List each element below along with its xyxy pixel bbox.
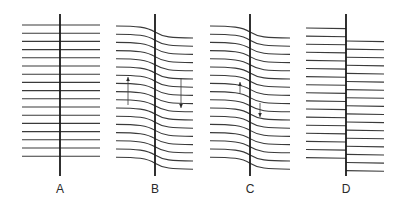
bedding-line-left [306, 93, 346, 94]
bedding-line-right [346, 154, 384, 155]
bedding-line-left [306, 69, 346, 70]
panel-label-c: C [246, 182, 255, 196]
bedding-line-left [306, 28, 346, 29]
bedding-line-right [346, 114, 384, 115]
bedding-line-right [346, 122, 384, 123]
bedding-line-left [306, 141, 346, 142]
bedding-line-right [346, 106, 384, 107]
bedding-line-left [306, 85, 346, 86]
bedding-line-left [306, 44, 346, 45]
bedding-line-right [346, 90, 384, 91]
arrowhead-icon [179, 104, 183, 108]
arrowhead-icon [126, 77, 130, 81]
panel-c: C [210, 14, 290, 196]
bedding-line-right [346, 130, 384, 131]
bedding-line-left [306, 109, 346, 110]
panel-b: B [116, 14, 193, 196]
fault-displacement-diagram: A B C D [0, 0, 406, 204]
bedding-line-right [346, 98, 384, 99]
bedding-line-left [306, 60, 346, 61]
bedding-line-right [346, 82, 384, 83]
arrowhead-icon [238, 82, 242, 86]
arrowhead-icon [258, 113, 262, 117]
bedding-line-left [306, 117, 346, 118]
bedding-line-right [346, 171, 384, 172]
bedding-line-right [346, 65, 384, 66]
bedding-line-left [306, 101, 346, 102]
bedding-line-left [306, 125, 346, 126]
bedding-line-left [306, 133, 346, 134]
bedding-line-right [346, 41, 384, 42]
bedding-line-right [346, 138, 384, 139]
bedding-line-right [346, 57, 384, 58]
panel-label-b: B [151, 182, 159, 196]
panel-d: D [306, 14, 384, 196]
bedding-line-left [306, 77, 346, 78]
bedding-line-left [306, 36, 346, 37]
panel-label-a: A [56, 182, 64, 196]
panel-label-d: D [342, 182, 351, 196]
bedding-line-right [346, 73, 384, 74]
bedding-line-right [346, 49, 384, 50]
bedding-line-left [306, 150, 346, 151]
bedding-line-right [346, 146, 384, 147]
bedding-line-left [306, 52, 346, 53]
bedding-line-left [306, 158, 346, 159]
bedding-line-right [346, 163, 384, 164]
panel-a: A [22, 14, 100, 196]
